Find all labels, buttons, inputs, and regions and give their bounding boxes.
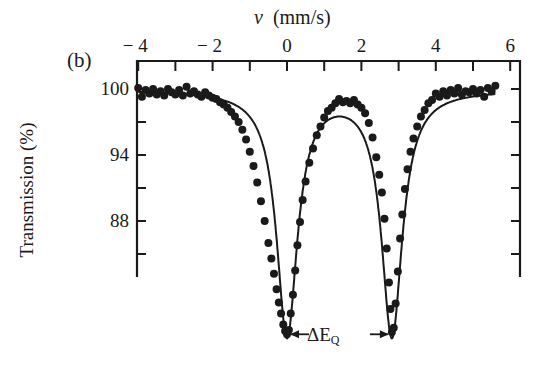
x-tick-label: − 4 [123,36,148,55]
data-point [246,148,254,156]
data-point [291,267,299,275]
data-point [270,270,278,278]
data-point [390,324,398,332]
data-point [407,148,415,156]
panel-label: (b) [67,50,92,71]
data-point [293,241,301,249]
x-tick-label: 4 [431,36,441,55]
data-point [264,239,272,247]
y-axis-title: Transmission (%) [17,123,36,258]
x-axis-unit: (mm/s) [273,6,331,28]
data-point [242,136,250,144]
fit-curve [138,92,495,339]
data-point [378,188,386,196]
x-tick-label: 2 [357,36,367,55]
data-point [261,217,269,225]
data-point [394,268,402,276]
data-point [401,185,409,193]
data-point [316,122,324,130]
y-tick-label: 100 [101,79,130,98]
data-point [289,291,297,299]
data-point [491,82,499,90]
data-point [365,119,373,127]
data-point [392,300,400,308]
delta-eq-annotation: ΔEQ [307,325,340,346]
data-point [179,92,187,100]
data-point [277,309,285,317]
data-point [385,279,393,287]
data-point [134,84,142,92]
delta-eq-subscript: Q [331,333,340,347]
data-point [404,165,412,173]
data-point [302,177,310,185]
data-point [253,179,261,187]
data-point [372,153,380,161]
data-point [305,159,313,167]
data-point [480,93,488,101]
x-axis-symbol: v [254,6,263,28]
x-tick-label: 0 [282,36,292,55]
data-point [250,162,258,170]
data-point [409,135,417,143]
data-point [375,171,383,179]
fit-line [138,92,495,339]
data-point [287,309,295,317]
right-arrow-head [380,330,389,338]
data-point [383,245,391,253]
data-point [309,144,317,152]
x-tick-label: − 2 [197,36,222,55]
y-tick-label: 94 [110,145,129,164]
data-point [369,133,377,141]
data-point [299,196,307,204]
delta-eq-symbol: ΔE [307,324,331,345]
y-tick-label: 88 [110,211,129,230]
data-point [313,131,321,139]
x-axis-title: v (mm/s) [254,7,331,27]
x-tick-label: 6 [505,36,515,55]
data-point [398,210,406,218]
data-point [396,235,404,243]
data-point [235,118,243,126]
data-point [413,122,421,130]
data-points [134,82,499,339]
data-point [275,298,283,306]
data-point [257,197,265,205]
data-point [273,285,281,293]
data-point [238,126,246,134]
data-point [361,109,369,117]
data-point [285,326,293,334]
data-point [267,254,275,262]
data-point [380,215,388,223]
data-point [296,218,304,226]
